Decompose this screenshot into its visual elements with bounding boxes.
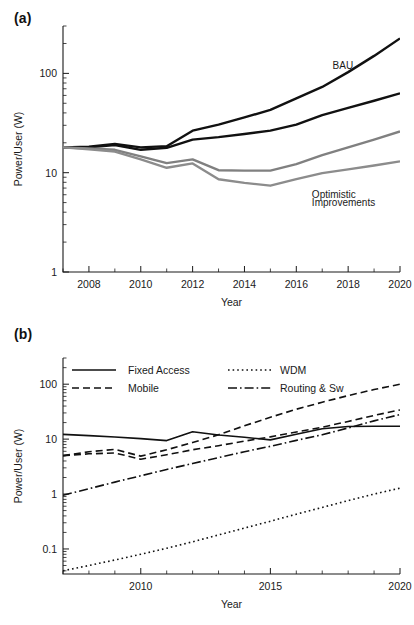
x-axis-title: Year xyxy=(221,598,243,610)
series-line-mobile-lower xyxy=(63,410,400,459)
series-line-fixed-access xyxy=(63,426,400,440)
legend-label-fixed-access: Fixed Access xyxy=(128,364,190,376)
x-tick-label: 2010 xyxy=(129,580,153,592)
x-tick-label: 2010 xyxy=(129,278,153,290)
y-tick-label: 10 xyxy=(45,167,57,179)
y-tick-label: 10 xyxy=(45,433,57,445)
panel-a-plot: 1101002008201020122014201620182020YearPo… xyxy=(0,0,414,318)
annotation-0: BAU xyxy=(333,60,354,71)
legend-label-routing-sw: Routing & Sw xyxy=(280,382,344,394)
series-line-optimistic-lower xyxy=(63,147,400,185)
axis-lines xyxy=(63,358,400,574)
y-tick-label: 100 xyxy=(39,378,57,390)
x-tick-label: 2020 xyxy=(388,278,412,290)
y-tick-label: 100 xyxy=(39,67,57,79)
x-tick-label: 2018 xyxy=(336,278,360,290)
figure-container: (a) 1101002008201020122014201620182020Ye… xyxy=(0,0,414,625)
legend-label-wdm: WDM xyxy=(280,364,306,376)
panel-b: (b) 0.1110100201020152020YearPower/User … xyxy=(0,318,414,625)
y-tick-label: 0.1 xyxy=(42,543,57,555)
panel-b-plot: 0.1110100201020152020YearPower/User (W)F… xyxy=(0,318,414,625)
x-tick-label: 2020 xyxy=(388,580,412,592)
y-tick-label: 1 xyxy=(51,488,57,500)
series-line-bau-upper xyxy=(63,38,400,147)
y-tick-label: 1 xyxy=(51,266,57,278)
annotation-2: Improvements xyxy=(312,197,375,208)
x-tick-label: 2016 xyxy=(285,278,309,290)
x-tick-label: 2015 xyxy=(259,580,283,592)
x-axis-title: Year xyxy=(221,296,243,308)
x-tick-label: 2008 xyxy=(77,278,101,290)
panel-a: (a) 1101002008201020122014201620182020Ye… xyxy=(0,0,414,318)
y-axis-title: Power/User (W) xyxy=(12,112,24,187)
legend-label-mobile: Mobile xyxy=(128,382,159,394)
x-tick-label: 2012 xyxy=(181,278,205,290)
y-axis-title: Power/User (W) xyxy=(12,429,24,504)
series-line-wdm xyxy=(63,488,400,571)
x-tick-label: 2014 xyxy=(233,278,257,290)
series-line-mobile-upper xyxy=(63,384,400,456)
